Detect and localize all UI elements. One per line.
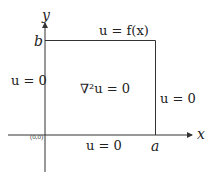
b-label: b xyxy=(34,34,43,48)
right-boundary-condition: u = 0 xyxy=(160,92,196,105)
y-axis-label: y xyxy=(42,8,50,22)
top-boundary-condition: u = f(x) xyxy=(99,24,149,37)
bottom-boundary-condition: u = 0 xyxy=(86,139,122,152)
left-boundary-condition: u = 0 xyxy=(11,74,47,87)
laplace-rectangle-diagram: y x b a (0,0) u = f(x) u = 0 u = 0 u = 0… xyxy=(0,0,215,178)
x-axis-label: x xyxy=(197,127,205,141)
a-label: a xyxy=(151,139,159,153)
origin-label: (0,0) xyxy=(30,134,43,141)
laplace-equation: ∇²u = 0 xyxy=(80,82,130,95)
